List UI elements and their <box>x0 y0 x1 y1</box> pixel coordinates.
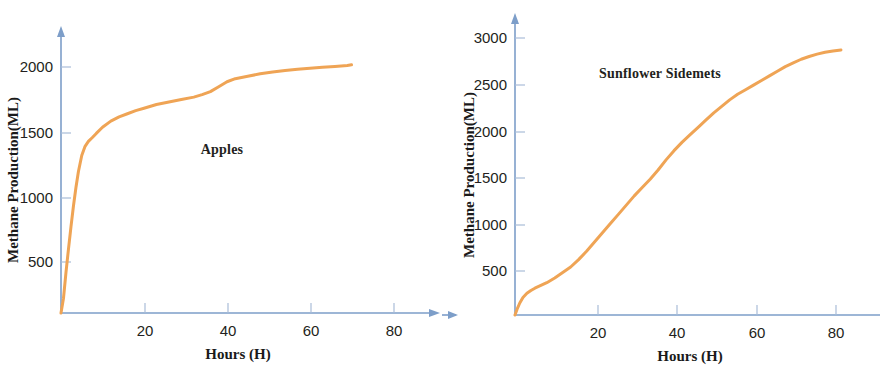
y-tick-label-3000: 3000 <box>474 29 507 46</box>
x-tick-label-20: 20 <box>137 322 154 339</box>
y-tick-label-500: 500 <box>482 262 507 279</box>
chart-panel-apples: 2000 1500 1000 500 20 40 60 80 Hours (H)… <box>0 0 442 365</box>
x-tick-label-60: 60 <box>749 324 766 341</box>
x-tick-label-80: 80 <box>828 324 845 341</box>
y-tick-label-1000: 1000 <box>20 189 53 206</box>
chart-panel-sunflower: 3000 2500 2000 1500 1000 500 20 40 60 80… <box>442 0 884 365</box>
data-line-apples <box>61 65 352 313</box>
y-tick-label-2500: 2500 <box>474 76 507 93</box>
x-axis-title: Hours (H) <box>205 346 270 363</box>
x-axis-arrowhead <box>429 309 440 317</box>
x-tick-label-40: 40 <box>669 324 686 341</box>
y-tick-label-2000: 2000 <box>474 123 507 140</box>
series-label-apples: Apples <box>201 142 244 157</box>
sunflower-plot: 3000 2500 2000 1500 1000 500 20 40 60 80… <box>442 0 884 365</box>
x-tick-label-40: 40 <box>220 322 237 339</box>
x-axis-left-arrowhead <box>448 311 458 319</box>
x-tick-label-20: 20 <box>590 324 607 341</box>
y-tick-label-1500: 1500 <box>20 124 53 141</box>
figure-container: 2000 1500 1000 500 20 40 60 80 Hours (H)… <box>0 0 884 365</box>
series-label-sunflower: Sunflower Sidemets <box>599 66 721 81</box>
y-tick-label-1500: 1500 <box>474 169 507 186</box>
x-tick-label-80: 80 <box>386 322 403 339</box>
data-line-sunflower <box>515 50 841 315</box>
x-axis-title: Hours (H) <box>657 348 722 365</box>
y-axis-title: Methane Production(ML) <box>5 97 22 263</box>
x-tick-label-60: 60 <box>303 322 320 339</box>
y-axis-arrowhead <box>511 13 519 24</box>
apples-plot: 2000 1500 1000 500 20 40 60 80 Hours (H)… <box>0 0 442 365</box>
y-tick-label-500: 500 <box>28 253 53 270</box>
y-axis-title: Methane Production(ML) <box>461 92 478 258</box>
y-axis-arrowhead <box>57 26 65 37</box>
y-tick-label-1000: 1000 <box>474 216 507 233</box>
y-tick-label-2000: 2000 <box>20 58 53 75</box>
